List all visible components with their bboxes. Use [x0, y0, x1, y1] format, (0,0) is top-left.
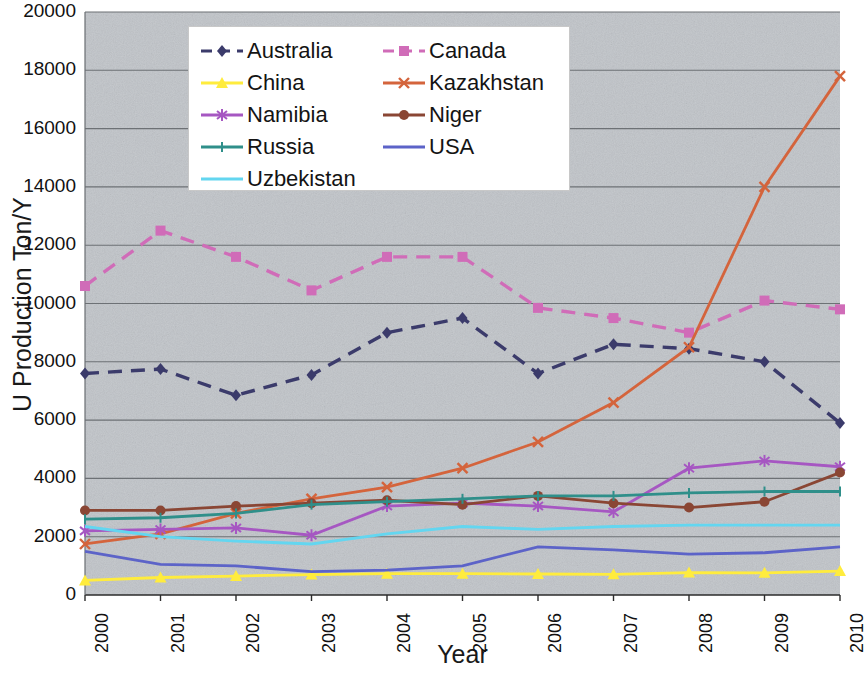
legend-swatch-icon — [199, 137, 245, 157]
legend-label: USA — [429, 134, 474, 160]
y-axis-tick-label: 18000 — [2, 58, 76, 80]
data-point-marker — [156, 226, 166, 236]
data-point-marker — [835, 304, 845, 314]
x-axis-tick-label: 2007 — [621, 613, 642, 653]
legend-label: Russia — [247, 134, 314, 160]
legend-item-usa[interactable]: USA — [381, 131, 563, 163]
data-point-marker — [458, 252, 468, 262]
legend-swatch-icon — [199, 169, 245, 189]
data-point-marker — [399, 46, 409, 56]
y-axis-tick-label: 6000 — [2, 408, 76, 430]
data-point-marker — [80, 505, 90, 515]
x-axis-tick-label: 2001 — [168, 613, 189, 653]
legend-label: Canada — [429, 38, 506, 64]
data-point-marker — [760, 296, 770, 306]
legend-label: Namibia — [247, 102, 328, 128]
data-point-marker — [231, 252, 241, 262]
data-point-marker — [80, 281, 90, 291]
y-axis-tick-label: 0 — [2, 583, 76, 605]
data-point-marker — [609, 313, 619, 323]
x-axis-tick-label: 2004 — [394, 613, 415, 653]
x-axis-tick-label: 2003 — [319, 613, 340, 653]
x-axis-tick-label: 2009 — [772, 613, 793, 653]
legend-item-kazakhstan[interactable]: Kazakhstan — [381, 67, 563, 99]
data-point-marker — [399, 110, 409, 120]
y-axis-tick-label: 10000 — [2, 292, 76, 314]
x-axis-tick-label: 2005 — [470, 613, 491, 653]
legend-swatch-icon — [199, 105, 245, 125]
data-point-marker — [835, 468, 845, 478]
legend-swatch-icon — [199, 73, 245, 93]
y-axis-tick-label: 12000 — [2, 233, 76, 255]
x-axis-tick-label: 2006 — [545, 613, 566, 653]
x-axis-title: Year — [85, 640, 840, 669]
legend-label: Australia — [247, 38, 333, 64]
legend-swatch-icon — [381, 73, 427, 93]
x-axis-tick-label: 2000 — [92, 613, 113, 653]
y-axis-tick-label: 20000 — [2, 0, 76, 22]
legend-label: Niger — [429, 102, 482, 128]
legend-item-niger[interactable]: Niger — [381, 99, 563, 131]
y-axis-tick-label: 2000 — [2, 525, 76, 547]
legend-label: Kazakhstan — [429, 70, 544, 96]
x-axis-tick-label: 2002 — [243, 613, 264, 653]
legend-swatch-icon — [381, 105, 427, 125]
legend-item-canada[interactable]: Canada — [381, 35, 563, 67]
y-axis-tick-label: 8000 — [2, 350, 76, 372]
legend-swatch-icon — [381, 41, 427, 61]
data-point-marker — [217, 45, 227, 57]
y-axis-tick-label: 4000 — [2, 466, 76, 488]
data-point-marker — [533, 303, 543, 313]
y-axis-tick-label: 16000 — [2, 117, 76, 139]
chart-legend: AustraliaCanadaChinaKazakhstanNamibiaNig… — [188, 26, 570, 191]
data-point-marker — [684, 328, 694, 338]
y-axis-tick-label: 14000 — [2, 175, 76, 197]
data-point-marker — [760, 497, 770, 507]
legend-item-australia[interactable]: Australia — [199, 35, 381, 67]
legend-item-russia[interactable]: Russia — [199, 131, 381, 163]
legend-swatch-icon — [199, 41, 245, 61]
data-point-marker — [684, 503, 694, 513]
legend-item-china[interactable]: China — [199, 67, 381, 99]
legend-label: Uzbekistan — [247, 166, 356, 192]
x-axis-ticks — [85, 595, 840, 601]
legend-item-namibia[interactable]: Namibia — [199, 99, 381, 131]
legend-swatch-icon — [381, 137, 427, 157]
legend-label: China — [247, 70, 304, 96]
data-point-marker — [382, 252, 392, 262]
legend-item-uzbekistan[interactable]: Uzbekistan — [199, 163, 381, 195]
x-axis-tick-label: 2010 — [847, 613, 868, 653]
data-point-marker — [307, 285, 317, 295]
x-axis-tick-label: 2008 — [696, 613, 717, 653]
